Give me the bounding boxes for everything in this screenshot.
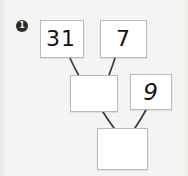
number-box-value: 31 <box>46 28 76 50</box>
connector-a-to-c <box>70 58 79 75</box>
connector-b-to-c <box>109 58 115 75</box>
number-box-top-right[interactable]: 7 <box>100 20 147 58</box>
connector-d-to-e <box>135 110 146 128</box>
worksheet-canvas: 1 31 7 9 <box>0 0 188 176</box>
connector-c-to-e <box>103 112 114 128</box>
number-box-bottom-empty[interactable] <box>97 128 148 170</box>
number-box-middle-right[interactable]: 9 <box>130 74 172 110</box>
number-box-top-left[interactable]: 31 <box>40 20 84 58</box>
number-box-value: 7 <box>116 28 131 50</box>
number-box-middle-left-empty[interactable] <box>70 75 118 112</box>
number-box-value: 9 <box>143 81 159 104</box>
